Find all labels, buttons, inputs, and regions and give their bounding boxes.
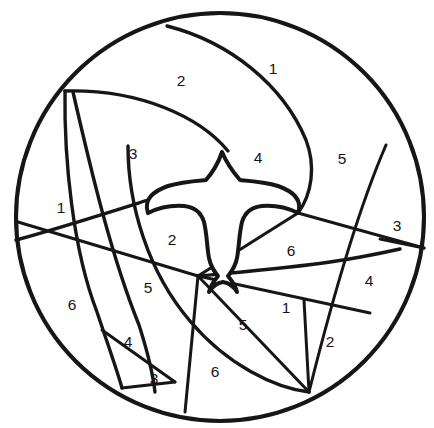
region-label-bottom-2: 2 — [326, 333, 335, 350]
region-label-left-1: 1 — [57, 199, 66, 216]
region-label-inner-2: 2 — [168, 231, 177, 248]
region-label-center-4: 4 — [254, 149, 263, 166]
divider-upper-left-arc — [65, 91, 228, 151]
region-label-top-1: 1 — [269, 60, 278, 77]
region-label-lower-4: 4 — [124, 333, 133, 350]
divider-bottom-left-cell-edge — [122, 382, 175, 388]
dove-silhouette — [147, 152, 299, 292]
region-label-right-5: 5 — [338, 150, 347, 167]
region-label-right-4: 4 — [365, 272, 374, 289]
region-label-inner-6: 6 — [287, 242, 296, 259]
region-label-inner-5: 5 — [144, 279, 153, 296]
dove-color-by-number-figure: 2 1 3 4 5 1 3 2 6 4 5 1 6 5 2 4 3 6 — [0, 0, 434, 428]
divider-lower-right-short-radial — [304, 300, 309, 392]
region-label-bottom-5: 5 — [239, 316, 248, 333]
region-label-left-3: 3 — [129, 145, 138, 162]
coloring-page-canvas: 2 1 3 4 5 1 3 2 6 4 5 1 6 5 2 4 3 6 — [0, 0, 434, 428]
region-label-lower-1: 1 — [282, 299, 291, 316]
divider-right-radial — [309, 145, 386, 392]
region-label-bottom-3: 3 — [150, 370, 159, 387]
region-label-bottom-6: 6 — [211, 363, 220, 380]
region-label-left-6: 6 — [68, 296, 77, 313]
region-label-far-right-3: 3 — [393, 217, 402, 234]
divider-bottom-center-radial — [185, 276, 198, 412]
region-label-top-2: 2 — [177, 72, 186, 89]
